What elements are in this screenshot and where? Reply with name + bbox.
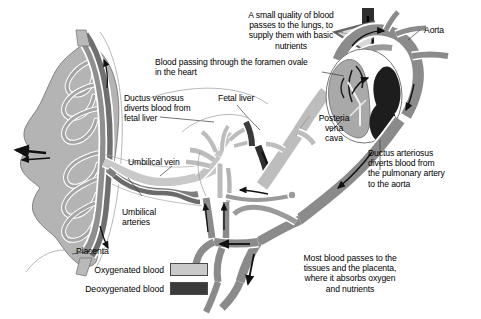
label-foramen-ovale: Blood passing through the foramen ovale … [155, 57, 355, 77]
fetal-circulation-diagram: A small quality of blood passes to the l… [0, 0, 481, 319]
label-ductus-venosus: Ductus venosus diverts blood from fetal … [124, 93, 220, 124]
label-tissues-note: Most blood passes to the tissues and the… [276, 253, 424, 294]
placenta-lower-contour [26, 250, 64, 272]
legend-swatch-deoxygenated [170, 282, 208, 295]
legend-swatch-oxygenated [170, 263, 208, 276]
legend-item-deoxygenated: Deoxygenated blood [63, 282, 208, 295]
label-placenta: Placenta [76, 246, 142, 256]
label-aorta: Aorta [424, 25, 474, 35]
label-ductus-arteriosus: Ductus arteriosus diverts blood from the… [368, 148, 480, 189]
legend-label-oxygenated: Oxygenated blood [63, 265, 164, 275]
legend-item-oxygenated: Oxygenated blood [63, 263, 208, 276]
label-umbilical-arteries: Umbilical arteries [122, 207, 184, 227]
label-lungs-note: A small quality of blood passes to the l… [218, 10, 364, 51]
label-posterior-vena-cava: Posteria vena cava [310, 113, 358, 144]
umbilical-artery-origin [226, 190, 296, 200]
label-umbilical-vein: Umbilical vein [128, 157, 218, 167]
legend-label-deoxygenated: Deoxygenated blood [63, 284, 164, 294]
label-fetal-liver: Fetal liver [218, 93, 280, 103]
